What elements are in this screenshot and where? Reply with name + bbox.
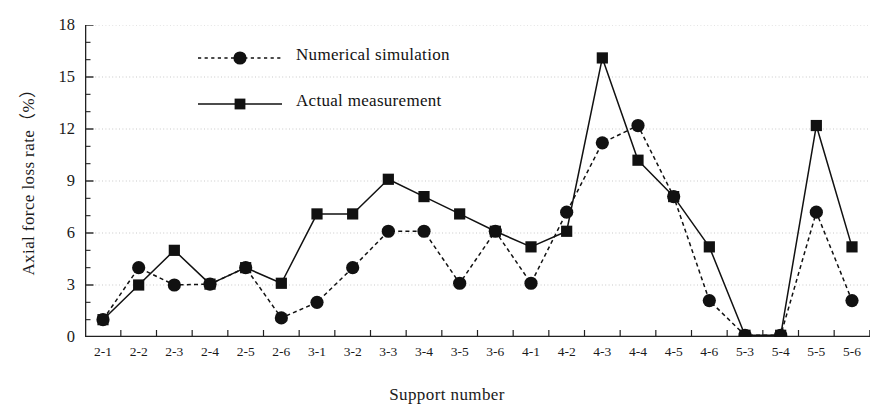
y-tick-label: 15: [41, 69, 75, 85]
x-axis-label: Support number: [0, 385, 894, 405]
legend: Numerical simulation Actual measurement: [196, 46, 526, 138]
data-point-actual-measurement: [525, 241, 536, 252]
data-point-numerical-simulation: [596, 136, 609, 149]
data-point-actual-measurement: [846, 241, 857, 252]
data-point-actual-measurement: [276, 278, 287, 289]
data-point-numerical-simulation: [168, 278, 181, 291]
data-point-actual-measurement: [632, 155, 643, 166]
y-axis-label: Axial force loss rate（%）: [14, 8, 44, 348]
data-point-numerical-simulation: [810, 206, 823, 219]
data-point-actual-measurement: [418, 191, 429, 202]
data-point-actual-measurement: [169, 245, 180, 256]
x-tick-label-group: 2-12-22-32-42-52-63-13-23-33-43-53-64-14…: [85, 344, 870, 366]
data-point-numerical-simulation: [703, 294, 716, 307]
legend-item-numerical-simulation: Numerical simulation: [196, 46, 526, 92]
data-point-actual-measurement: [811, 120, 822, 131]
y-tick-label: 3: [41, 277, 75, 293]
data-point-numerical-simulation: [346, 261, 359, 274]
data-point-numerical-simulation: [310, 296, 323, 309]
data-point-actual-measurement: [133, 279, 144, 290]
data-point-actual-measurement: [97, 314, 108, 325]
data-point-actual-measurement: [347, 208, 358, 219]
data-point-actual-measurement: [383, 174, 394, 185]
data-point-actual-measurement: [561, 226, 572, 237]
data-point-actual-measurement: [454, 208, 465, 219]
data-point-actual-measurement: [311, 208, 322, 219]
data-point-numerical-simulation: [631, 119, 644, 132]
data-point-actual-measurement: [775, 330, 786, 337]
data-point-numerical-simulation: [382, 225, 395, 238]
chart-figure: Axial force loss rate（%） 0369121518 2-12…: [0, 0, 894, 420]
data-point-actual-measurement: [490, 226, 501, 237]
data-point-actual-measurement: [704, 241, 715, 252]
legend-sample-solid-square: [196, 92, 284, 116]
legend-label-actual-measurement: Actual measurement: [296, 91, 442, 111]
x-tick-label: 5-6: [831, 344, 873, 360]
legend-sample-dotted-circle: [196, 46, 284, 70]
y-tick-label: 6: [41, 225, 75, 241]
legend-label-numerical-simulation: Numerical simulation: [296, 45, 450, 65]
y-tick-label: 18: [41, 17, 75, 33]
data-point-numerical-simulation: [524, 277, 537, 290]
y-tick-label: 9: [41, 173, 75, 189]
data-point-numerical-simulation: [417, 225, 430, 238]
data-point-actual-measurement: [668, 191, 679, 202]
data-point-actual-measurement: [204, 279, 215, 290]
data-point-numerical-simulation: [845, 294, 858, 307]
legend-item-actual-measurement: Actual measurement: [196, 92, 526, 138]
y-tick-label: 0: [41, 329, 75, 345]
data-point-actual-measurement: [240, 262, 251, 273]
data-point-actual-measurement: [597, 52, 608, 63]
data-point-numerical-simulation: [132, 261, 145, 274]
data-point-numerical-simulation: [453, 277, 466, 290]
data-point-numerical-simulation: [560, 206, 573, 219]
data-point-numerical-simulation: [275, 311, 288, 324]
y-tick-label: 12: [41, 121, 75, 137]
series-line-numerical-simulation: [103, 126, 852, 336]
data-point-actual-measurement: [739, 330, 750, 337]
